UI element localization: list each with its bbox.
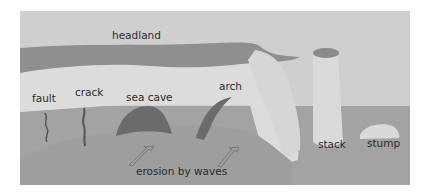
label-crack: crack	[75, 86, 104, 98]
label-stump: stump	[367, 137, 400, 149]
label-fault: fault	[32, 92, 56, 104]
coastal-erosion-diagram: headland fault crack sea cave arch stack…	[0, 0, 430, 192]
label-erosion: erosion by waves	[136, 165, 227, 177]
label-arch: arch	[219, 80, 242, 92]
stack	[313, 51, 343, 147]
stack-top	[313, 48, 339, 58]
label-sea-cave: sea cave	[126, 91, 173, 103]
label-stack: stack	[318, 138, 347, 150]
label-headland: headland	[112, 29, 161, 41]
